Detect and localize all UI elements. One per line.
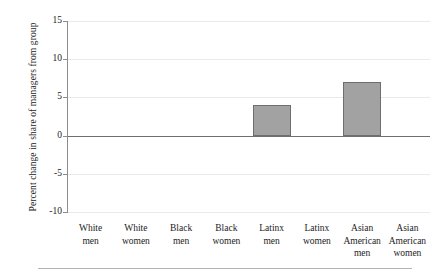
y-tick-label: -10 [36,207,62,217]
x-tick-label: Latinx women [294,222,339,268]
x-tick-label: Asian American men [340,222,385,268]
y-tick-label: -5 [36,169,62,179]
x-tick-label: Latinx men [249,222,294,268]
bottom-rule [38,268,412,269]
bar-chart-figure: Percent change in share of managers from… [0,0,448,275]
plot-area [68,21,430,212]
x-tick-label: White men [68,222,113,268]
x-tick-label: White women [113,222,158,268]
gridline [68,212,430,213]
x-tick-label: Asian American women [385,222,430,268]
gridline [68,21,430,22]
x-tick-label: Black women [204,222,249,268]
y-tick-label: 0 [36,131,62,141]
y-tick-label: 15 [36,16,62,26]
gridline [68,59,430,60]
x-axis-tick-labels: White menWhite womenBlack menBlack women… [68,222,430,268]
y-tick-label: 10 [36,54,62,64]
bar [253,105,291,136]
x-tick-label: Black men [159,222,204,268]
gridline [68,174,430,175]
y-axis-title: Percent change in share of managers from… [22,2,44,232]
bar [343,82,381,135]
zero-line [68,136,430,137]
y-tick-label: 5 [36,92,62,102]
